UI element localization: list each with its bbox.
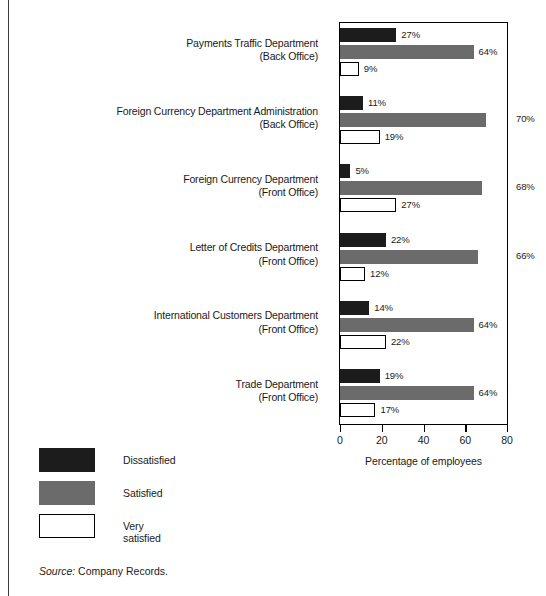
bar-group: 19%64%17%: [340, 369, 507, 417]
category-label-line: Trade Department: [18, 378, 318, 392]
bar-dissatisfied: [340, 301, 369, 315]
bar-satisfied: [340, 250, 478, 264]
bar-very-satisfied: [340, 198, 396, 212]
x-tick: [465, 425, 466, 432]
data-label: 11%: [368, 96, 386, 110]
bar-very-satisfied: [340, 62, 359, 76]
category-label: International Customers Department(Front…: [18, 309, 318, 336]
data-label: 27%: [401, 28, 420, 42]
bar-dissatisfied: [340, 96, 363, 110]
x-axis: 020406080: [339, 425, 508, 426]
category-label-line: (Back Office): [18, 118, 318, 132]
category-label: Payments Traffic Department(Back Office): [18, 37, 318, 64]
bar-dissatisfied: [340, 233, 386, 247]
source-text: Company Records.: [78, 565, 168, 577]
legend-swatch-satisfied: [39, 481, 95, 505]
data-label: 19%: [385, 130, 404, 144]
x-tick: [507, 425, 508, 432]
figure-frame: Payments Traffic Department(Back Office)…: [8, 0, 538, 596]
bar-very-satisfied: [340, 335, 386, 349]
x-tick-label: 0: [337, 434, 343, 446]
data-label: 5%: [355, 164, 369, 178]
legend-label-dissatisfied: Dissatisfied: [123, 454, 176, 466]
bar-dissatisfied: [340, 369, 380, 383]
bar-group: 27%64%9%: [340, 28, 507, 76]
source-prefix: Source:: [39, 565, 75, 577]
data-label: 19%: [385, 369, 404, 383]
category-label: Foreign Currency Department Administrati…: [18, 105, 318, 132]
bar-satisfied: [340, 181, 482, 195]
data-label: 70%: [516, 112, 535, 126]
category-label-line: (Front Office): [18, 186, 318, 200]
x-tick-label: 40: [418, 434, 430, 446]
bar-satisfied: [340, 45, 474, 59]
bar-satisfied: [340, 386, 474, 400]
bar-dissatisfied: [340, 164, 350, 178]
bar-group: 11%19%: [340, 96, 507, 144]
data-label: 64%: [479, 45, 498, 59]
data-label: 22%: [391, 335, 410, 349]
bar-dissatisfied: [340, 28, 396, 42]
x-tick: [424, 425, 425, 432]
data-label: 22%: [391, 233, 410, 247]
bar-very-satisfied: [340, 130, 380, 144]
category-label-line: Payments Traffic Department: [18, 37, 318, 51]
category-label-line: (Front Office): [18, 255, 318, 269]
plot-area: 27%64%9%11%19%5%27%22%12%14%64%22%19%64%…: [339, 22, 508, 425]
x-tick-label: 60: [459, 434, 471, 446]
category-label: Foreign Currency Department(Front Office…: [18, 173, 318, 200]
legend-label-satisfied: Satisfied: [123, 487, 162, 499]
bar-group: 22%12%: [340, 233, 507, 281]
data-label: 14%: [374, 301, 393, 315]
bar-very-satisfied: [340, 267, 365, 281]
legend-label-very-satisfied: Very satisfied: [123, 520, 161, 544]
category-label-line: Foreign Currency Department: [18, 173, 318, 187]
category-label: Trade Department(Front Office): [18, 378, 318, 405]
data-label: 17%: [380, 403, 399, 417]
category-label: Letter of Credits Department(Front Offic…: [18, 241, 318, 268]
category-label-line: Letter of Credits Department: [18, 241, 318, 255]
x-tick-label: 20: [376, 434, 388, 446]
legend-swatch-dissatisfied: [39, 448, 95, 472]
bar-group: 5%27%: [340, 164, 507, 212]
data-label: 27%: [401, 198, 420, 212]
data-label: 66%: [516, 249, 535, 263]
data-label: 64%: [479, 386, 498, 400]
category-label-line: Foreign Currency Department Administrati…: [18, 105, 318, 119]
data-label: 9%: [364, 62, 378, 76]
x-tick: [340, 425, 341, 432]
x-tick: [382, 425, 383, 432]
category-label-line: (Front Office): [18, 323, 318, 337]
category-label-line: International Customers Department: [18, 309, 318, 323]
data-label: 12%: [370, 267, 389, 281]
data-label: 68%: [516, 180, 535, 194]
x-axis-title: Percentage of employees: [339, 455, 508, 467]
category-label-line: (Back Office): [18, 50, 318, 64]
bar-very-satisfied: [340, 403, 375, 417]
bar-group: 14%64%22%: [340, 301, 507, 349]
legend-swatch-very-satisfied: [39, 514, 95, 538]
data-label: 64%: [479, 318, 498, 332]
source-note: Source: Company Records.: [39, 565, 168, 577]
category-label-line: (Front Office): [18, 391, 318, 405]
x-tick-label: 80: [501, 434, 513, 446]
bar-satisfied: [340, 113, 486, 127]
bar-satisfied: [340, 318, 474, 332]
